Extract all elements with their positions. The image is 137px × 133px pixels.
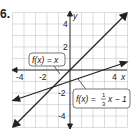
y-axis-arrow-down-icon xyxy=(68,124,73,129)
tick-y-2: 2 xyxy=(63,42,68,52)
svg-text:x − 1: x − 1 xyxy=(107,94,127,104)
arrow-icon xyxy=(120,62,127,67)
tick-y-neg2: -2 xyxy=(58,88,66,98)
y-axis-arrow-up-icon xyxy=(68,11,73,16)
callout-f-x-one-third-x-minus-1: f(x) = 1 3 x − 1 xyxy=(73,79,130,108)
tick-y-neg4: -4 xyxy=(58,111,66,121)
svg-text:f(x) = x: f(x) = x xyxy=(32,55,59,65)
tick-x-neg4: -4 xyxy=(16,72,24,82)
coordinate-graph: -4 -2 4 x 4 y 2 -2 -4 f(x) = x f(x) = 1 … xyxy=(0,0,137,133)
x-axis-label: x xyxy=(120,72,126,82)
y-axis-label: y xyxy=(72,11,78,21)
tick-x-4: 4 xyxy=(112,72,117,82)
tick-y-4: 4 xyxy=(63,19,68,29)
tick-x-neg2: -2 xyxy=(39,72,47,82)
arrow-icon xyxy=(13,96,20,101)
svg-text:f(x) =: f(x) = xyxy=(76,94,96,104)
